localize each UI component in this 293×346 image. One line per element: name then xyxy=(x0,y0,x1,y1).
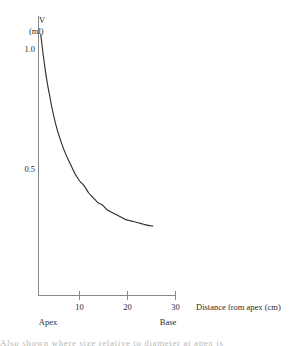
y-tick-label-0: 0.5 xyxy=(24,164,35,174)
x-tick-label-30: 30 xyxy=(171,302,180,312)
annotation-base: Base xyxy=(160,317,177,327)
x-tick-label-20: 20 xyxy=(123,302,132,312)
x-axis-title: Distance from apex (cm) xyxy=(196,302,281,312)
y-axis-units: (ml) xyxy=(29,26,44,36)
annotation-apex: Apex xyxy=(39,317,58,327)
x-tick-label-10: 10 xyxy=(75,302,84,312)
y-axis-title: V xyxy=(39,15,46,25)
chart-svg: V (ml) 1.0 0.5 10 20 30 Distance from ap… xyxy=(0,0,293,346)
cropped-caption-text: Also shown where size relative to diamet… xyxy=(0,338,293,346)
y-tick-label-1: 1.0 xyxy=(24,44,35,54)
chart-figure: V (ml) 1.0 0.5 10 20 30 Distance from ap… xyxy=(0,0,293,346)
data-curve-series-v xyxy=(41,35,153,227)
